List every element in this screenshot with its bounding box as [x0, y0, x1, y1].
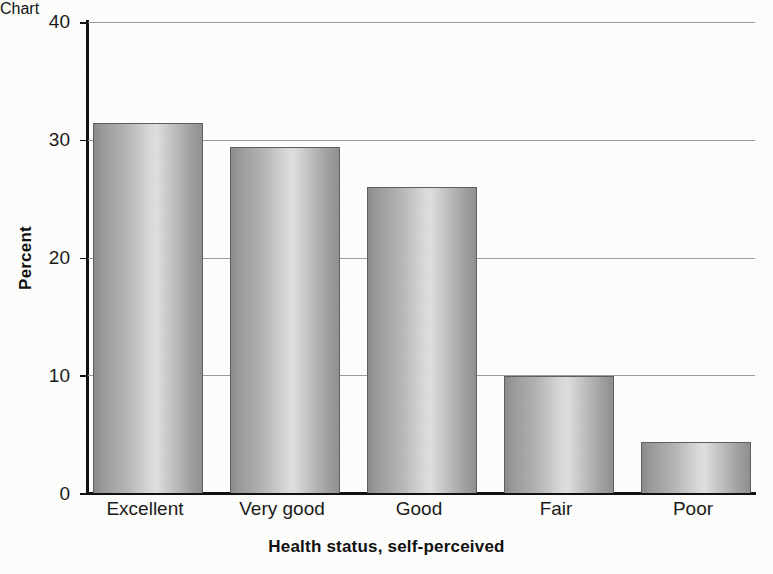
- y-axis-tick-labels: 40 30 20 10 0: [0, 0, 70, 574]
- gridline-40: [88, 22, 755, 23]
- y-tick-label-40: 40: [24, 12, 70, 31]
- y-tickmark-0: [80, 493, 88, 495]
- x-tick-label-very-good: Very good: [225, 498, 339, 521]
- x-tick-label-poor: Poor: [636, 498, 750, 521]
- y-tickmark-40: [80, 22, 88, 24]
- y-tickmark-30: [80, 140, 88, 142]
- bar-excellent: [93, 123, 203, 493]
- bar-good: [367, 187, 477, 493]
- bar-fair: [504, 376, 614, 493]
- x-tick-label-excellent: Excellent: [88, 498, 202, 521]
- y-tick-label-0: 0: [24, 484, 70, 503]
- bar-chart-figure: Percent 40 30 20 10 0 Excellent Very goo…: [0, 0, 773, 574]
- y-tickmark-20: [80, 258, 88, 260]
- x-tick-label-good: Good: [362, 498, 476, 521]
- x-axis-title: Health status, self-perceived: [0, 537, 773, 557]
- y-tick-label-20: 20: [24, 248, 70, 267]
- y-tickmark-10: [80, 375, 88, 377]
- plot-area: [88, 22, 755, 493]
- x-tick-label-fair: Fair: [499, 498, 613, 521]
- y-tick-label-10: 10: [24, 366, 70, 385]
- bar-poor: [641, 442, 751, 493]
- y-tick-label-30: 30: [24, 130, 70, 149]
- bar-very-good: [230, 147, 340, 493]
